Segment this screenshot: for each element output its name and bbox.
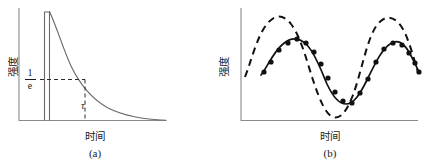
one-over-e-label: 1 e xyxy=(22,68,38,91)
data-point xyxy=(261,69,266,74)
data-point xyxy=(268,59,273,64)
data-point xyxy=(416,69,421,74)
panel-a-y-axis-label: 强度 xyxy=(8,46,19,88)
data-point xyxy=(365,76,370,81)
data-point xyxy=(332,89,337,94)
data-point xyxy=(399,42,404,47)
tau-label: τ xyxy=(81,101,85,111)
panel-b-sample-solid-curve xyxy=(261,39,419,104)
panel-a: 1 e τ 强度 时间 (a) xyxy=(0,0,214,165)
data-point xyxy=(276,47,281,52)
data-point xyxy=(357,90,362,95)
data-point xyxy=(390,40,395,45)
data-point xyxy=(311,49,316,54)
panel-a-caption: (a) xyxy=(0,148,202,159)
data-point xyxy=(406,50,411,55)
data-point xyxy=(325,75,330,80)
panel-b-y-axis-label: 强度 xyxy=(219,46,230,88)
panel-b-data-markers xyxy=(261,36,421,105)
data-point xyxy=(303,40,308,45)
data-point xyxy=(294,36,299,41)
panel-b-caption: (b) xyxy=(223,148,427,159)
panel-a-decay-curve xyxy=(50,12,167,121)
data-point xyxy=(381,46,386,51)
one-over-e-numerator: 1 xyxy=(22,68,38,79)
data-point xyxy=(349,100,354,105)
figure-container: 1 e τ 强度 时间 (a) xyxy=(0,0,427,165)
one-over-e-denominator: e xyxy=(22,81,38,92)
panel-b-x-axis-label: 时间 xyxy=(223,131,427,142)
panel-a-excitation-pulse xyxy=(45,12,50,121)
panel-b: 强度 时间 (b) xyxy=(213,0,427,165)
data-point xyxy=(340,98,345,103)
data-point xyxy=(373,59,378,64)
panel-a-x-axis-label: 时间 xyxy=(0,131,202,142)
data-point xyxy=(318,61,323,66)
data-point xyxy=(412,60,417,65)
data-point xyxy=(285,40,290,45)
panel-b-reference-dashed-curve xyxy=(245,17,418,118)
